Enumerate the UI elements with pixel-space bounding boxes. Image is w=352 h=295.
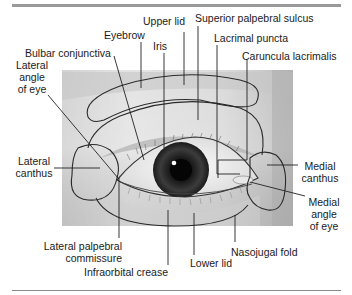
label-caruncula-lacrimalis: Caruncula lacrimalis	[242, 50, 337, 62]
label-infraorbital-crease: Infraorbital crease	[84, 266, 168, 278]
label-iris: Iris	[153, 40, 167, 52]
label-lower-lid: Lower lid	[190, 257, 232, 269]
label-medial-canthus: Medial canthus	[299, 160, 341, 184]
label-eyebrow: Eyebrow	[104, 29, 145, 41]
label-bulbar-conjunctiva: Bulbar conjunctiva	[25, 47, 111, 59]
label-lateral-canthus: Lateral canthus	[15, 155, 53, 179]
label-lateral-angle-of-eye: Lateral angle of eye	[14, 59, 50, 95]
label-medial-angle-of-eye: Medial angle of eye	[306, 196, 342, 232]
bottom-rule	[12, 290, 341, 291]
label-lateral-palpebral-commissure: Lateral palpebral commissure	[40, 240, 122, 264]
label-superior-palpebral-sulcus: Superior palpebral sulcus	[195, 12, 313, 24]
label-lacrimal-puncta: Lacrimal puncta	[214, 32, 288, 44]
label-nasojugal-fold: Nasojugal fold	[231, 246, 298, 258]
label-upper-lid: Upper lid	[143, 15, 185, 27]
